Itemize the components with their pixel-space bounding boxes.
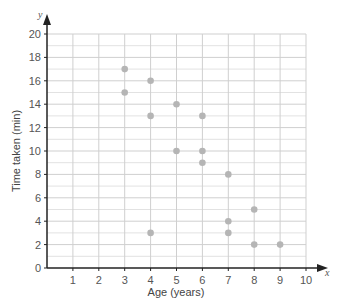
tick-labels: 1234567891002468101214161820 <box>29 28 312 286</box>
data-point <box>147 78 154 85</box>
y-axis-arrow-icon <box>43 14 51 25</box>
y-axis-label: Time taken (min) <box>10 110 22 192</box>
x-axis-label: Age (years) <box>148 286 205 298</box>
data-point <box>147 230 154 237</box>
y-tick-label: 18 <box>29 51 41 63</box>
data-point <box>251 241 258 248</box>
x-tick-label: 7 <box>225 274 231 286</box>
y-tick-label: 0 <box>35 262 41 274</box>
y-tick-label: 14 <box>29 98 41 110</box>
y-axis-variable: y <box>37 9 43 20</box>
y-tick-label: 20 <box>29 28 41 40</box>
x-tick-label: 1 <box>70 274 76 286</box>
data-point <box>173 101 180 108</box>
y-tick-label: 12 <box>29 122 41 134</box>
data-point <box>251 206 258 213</box>
y-tick-label: 2 <box>35 239 41 251</box>
data-point <box>225 230 232 237</box>
x-tick-label: 3 <box>122 274 128 286</box>
x-tick-label: 9 <box>277 274 283 286</box>
data-point <box>199 148 206 155</box>
scatter-chart: 1234567891002468101214161820 Age (years)… <box>0 0 338 303</box>
data-point <box>199 113 206 120</box>
x-tick-label: 6 <box>199 274 205 286</box>
y-tick-label: 8 <box>35 168 41 180</box>
data-point <box>225 218 232 225</box>
data-point <box>121 89 128 96</box>
data-point <box>147 113 154 120</box>
x-tick-label: 5 <box>173 274 179 286</box>
x-tick-label: 8 <box>251 274 257 286</box>
x-axis-variable: x <box>324 267 330 278</box>
x-tick-label: 10 <box>300 274 312 286</box>
data-point <box>199 159 206 166</box>
x-tick-label: 2 <box>96 274 102 286</box>
x-tick-label: 4 <box>148 274 154 286</box>
data-point <box>225 171 232 178</box>
data-point <box>277 241 284 248</box>
data-point <box>173 148 180 155</box>
y-tick-label: 10 <box>29 145 41 157</box>
y-tick-label: 4 <box>35 215 41 227</box>
data-point <box>121 66 128 73</box>
y-tick-label: 16 <box>29 75 41 87</box>
y-tick-label: 6 <box>35 192 41 204</box>
